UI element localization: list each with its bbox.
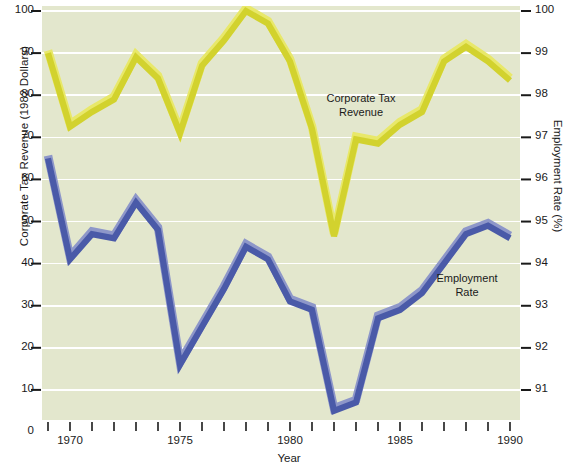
right-axis-tick-label: 100 xyxy=(535,3,575,15)
employment-rate-annotation-line1: Employment xyxy=(417,272,517,286)
gridlines-group xyxy=(42,11,520,390)
series-line xyxy=(48,11,510,236)
x-axis-tick-label: 1975 xyxy=(155,434,205,446)
right-axis-tick-label: 99 xyxy=(535,45,575,57)
x-axis-tick-label: 1990 xyxy=(485,434,535,446)
left-axis-tick-label: 40 xyxy=(0,256,34,268)
x-axis-tick-label: 1970 xyxy=(45,434,95,446)
corporate-tax-revenue-annotation-line2: Revenue xyxy=(306,106,416,120)
series-corporate-tax-revenue xyxy=(48,8,510,236)
x-axis-title: Year xyxy=(0,452,578,464)
x-axis-tick-label: 1985 xyxy=(375,434,425,446)
left-axis-tick-label: 10 xyxy=(0,382,34,394)
right-axis-ticks-group xyxy=(521,11,531,390)
right-axis-tick-label: 93 xyxy=(535,298,575,310)
left-axis-tick-label: 100 xyxy=(0,3,34,15)
left-axis-ticks-group xyxy=(31,11,41,390)
corporate-tax-revenue-annotation-line1: Corporate Tax xyxy=(306,92,416,106)
corporate-tax-revenue-annotation: Corporate Tax Revenue xyxy=(306,92,416,120)
left-axis-tick-label: 30 xyxy=(0,298,34,310)
x-axis-ticks-group xyxy=(48,422,510,431)
left-axis-tick-label: 0 xyxy=(0,424,34,436)
chart-container: 0102030405060708090100 91929394959697989… xyxy=(0,0,578,472)
left-axis-tick-label: 20 xyxy=(0,340,34,352)
x-axis-tick-label: 1980 xyxy=(265,434,315,446)
left-axis-title: Corporate Tax Revenue (1982 Dollars) xyxy=(18,36,30,256)
employment-rate-annotation-line2: Rate xyxy=(417,286,517,300)
series-lines-group xyxy=(48,8,510,411)
right-axis-tick-label: 91 xyxy=(535,382,575,394)
right-axis-title: Employment Rate (%) xyxy=(552,86,564,266)
chart-canvas xyxy=(0,0,578,472)
right-axis-tick-label: 92 xyxy=(535,340,575,352)
employment-rate-annotation: Employment Rate xyxy=(417,272,517,300)
